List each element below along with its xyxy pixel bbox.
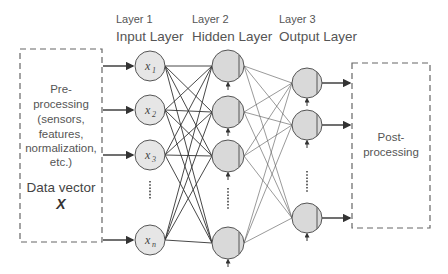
hidden-node-3	[212, 140, 244, 180]
preprocessing-line-5: normalization,	[25, 142, 97, 154]
preprocessing-line-4: features,	[39, 128, 84, 140]
data-vector-label: Data vector	[26, 180, 96, 195]
output-node-1	[292, 68, 322, 106]
svg-text:x: x	[144, 233, 151, 247]
hidden-node-4	[212, 227, 244, 267]
hidden-node-2	[212, 96, 244, 136]
neural-network-diagram: Pre- processing (sensors, features, norm…	[0, 0, 448, 274]
output-node-2	[292, 110, 322, 148]
svg-text:1: 1	[152, 66, 156, 75]
data-vector-symbol: X	[55, 196, 67, 212]
input-layer-nodes: x 1 x 2 x 3 x n	[135, 51, 165, 255]
preprocessing-line-3: (sensors,	[37, 113, 84, 125]
postprocessing-line-2: processing	[363, 146, 419, 158]
input-arrows	[103, 66, 133, 240]
svg-text:n: n	[152, 240, 156, 249]
svg-text:x: x	[144, 103, 151, 117]
preprocessing-line-2: processing	[33, 98, 89, 110]
output-layer-nodes	[292, 68, 322, 241]
layer-1-index: Layer 1	[116, 13, 153, 25]
input-node-xn: x n	[135, 225, 165, 255]
input-node-x1: x 1	[135, 51, 165, 81]
svg-text:3: 3	[151, 155, 156, 164]
hidden-layer-nodes	[212, 50, 244, 267]
hidden-node-1	[212, 50, 244, 90]
output-arrows	[322, 83, 350, 218]
layer-1-name: Input Layer	[116, 29, 184, 44]
layer-3-name: Output Layer	[279, 29, 358, 44]
input-hidden-connections	[165, 66, 212, 243]
preprocessing-line-6: etc.)	[50, 156, 73, 168]
svg-text:2: 2	[152, 110, 156, 119]
input-node-x2: x 2	[135, 95, 165, 125]
svg-text:x: x	[144, 59, 151, 73]
hidden-output-connections	[244, 66, 292, 243]
postprocessing-line-1: Post-	[378, 131, 405, 143]
layer-2-name: Hidden Layer	[192, 29, 273, 44]
preprocessing-line-1: Pre-	[50, 83, 72, 95]
layer-2-index: Layer 2	[192, 13, 229, 25]
input-node-x3: x 3	[135, 140, 165, 170]
layer-3-index: Layer 3	[279, 13, 316, 25]
output-node-3	[292, 203, 322, 241]
svg-text:x: x	[144, 148, 151, 162]
